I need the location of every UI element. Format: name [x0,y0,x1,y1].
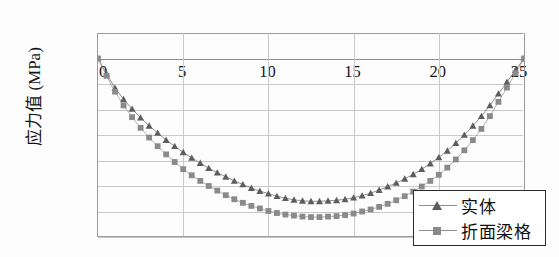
legend-item-grillage: 折面梁格 [419,218,541,243]
data-point-marker [418,166,425,172]
data-point-marker [248,185,255,191]
data-point-marker [427,160,434,166]
data-point-marker [376,187,383,193]
data-point-marker [163,151,169,157]
data-point-marker [495,90,502,96]
data-point-marker [300,214,306,220]
legend: 实体 折面梁格 [413,190,546,246]
legend-item-solid: 实体 [419,193,541,218]
data-point-marker [384,183,391,189]
data-point-marker [189,172,195,178]
data-point-marker [410,171,417,177]
data-point-marker [393,179,400,185]
data-point-marker [368,207,374,213]
series-line [98,59,524,202]
data-point-marker [257,206,263,212]
data-point-marker [197,160,204,166]
data-point-marker [222,173,229,179]
data-point-marker [359,209,365,215]
data-point-marker [112,89,118,95]
data-point-marker [256,188,263,194]
data-point-marker [504,85,510,91]
data-point-marker [180,166,186,172]
data-point-marker [351,211,357,217]
data-point-marker [214,169,221,175]
triangle-marker-icon [419,199,457,213]
data-point-marker [266,208,272,214]
stress-chart-figure: 应力值 (MPa) 0.50−0.5−1−1.5−2−2.5−3−3.5 051… [0,0,559,257]
data-point-marker [129,114,135,120]
data-point-marker [376,204,382,210]
data-point-marker [291,213,297,219]
data-point-marker [427,178,433,184]
data-point-marker [393,197,399,203]
data-point-marker [231,196,237,202]
data-point-marker [461,147,467,153]
data-point-marker [180,149,187,155]
data-point-marker [146,135,152,141]
data-point-marker [513,70,519,76]
data-point-marker [231,177,238,183]
data-point-marker [521,56,524,62]
data-point-marker [435,154,442,160]
data-point-marker [206,183,212,189]
data-point-marker [325,214,331,220]
data-point-marker [486,102,493,108]
data-point-marker [172,159,178,165]
data-point-marker [419,184,425,190]
y-axis-title: 应力值 (MPa) [20,17,45,177]
data-point-marker [121,103,127,109]
data-point-marker [317,214,323,220]
data-point-marker [205,165,212,171]
data-point-marker [308,214,314,220]
data-point-marker [171,143,178,149]
data-point-marker [367,190,374,196]
legend-label-solid: 实体 [457,193,496,218]
data-point-marker [496,99,502,105]
data-point-marker [453,157,459,163]
data-point-marker [470,137,476,143]
data-point-marker [487,113,493,119]
data-point-marker [274,210,280,216]
legend-label-grillage: 折面梁格 [457,218,531,243]
data-point-marker [188,154,195,160]
data-point-marker [479,126,485,132]
data-point-marker [155,143,161,149]
data-point-marker [436,172,442,178]
data-point-marker [240,200,246,206]
data-point-marker [385,201,391,207]
data-point-marker [223,192,229,198]
data-point-marker [401,175,408,181]
series-solid [98,55,524,204]
data-point-marker [248,203,254,209]
data-point-marker [239,181,246,187]
data-point-marker [444,165,450,171]
data-point-marker [197,178,203,184]
data-point-marker [214,188,220,194]
data-point-marker [98,56,101,62]
data-point-marker [283,212,289,218]
square-marker-icon [419,224,457,238]
data-point-marker [334,213,340,219]
data-point-marker [104,73,110,79]
data-point-marker [402,193,408,199]
data-point-marker [138,125,144,131]
data-point-marker [342,212,348,218]
